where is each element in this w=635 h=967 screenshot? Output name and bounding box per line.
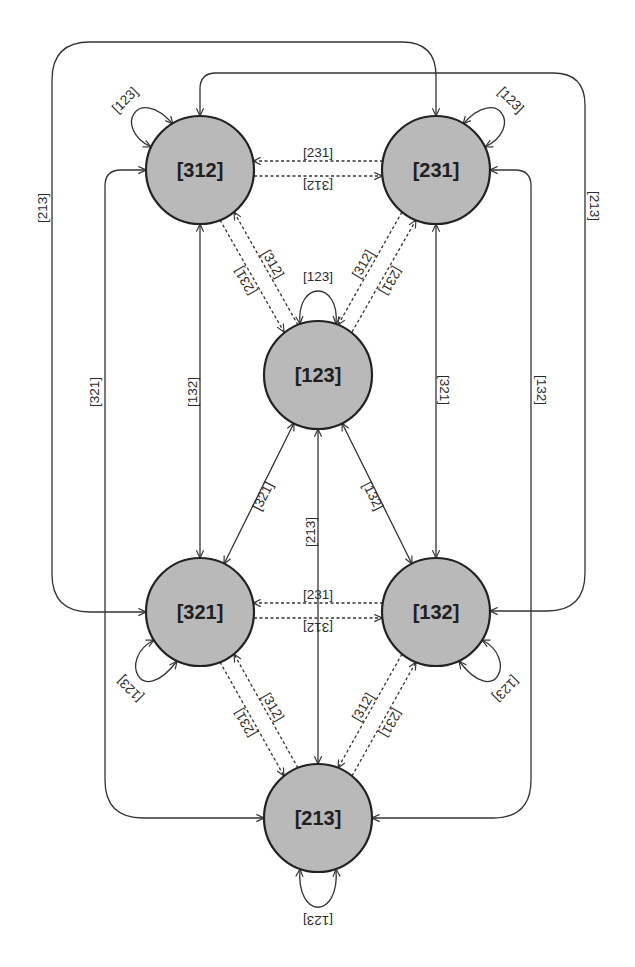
edge-label-132-to-321: [231]	[303, 587, 333, 602]
edge-label-312-to-231: [312]	[303, 178, 333, 193]
node-label: [123]	[295, 364, 342, 386]
edge-label-231-to-123: [312]	[349, 247, 377, 281]
node-321: [321]	[146, 558, 254, 666]
edge-label-123-to-231: [231]	[377, 264, 405, 298]
edge-label-321-to-132: [312]	[303, 620, 333, 635]
edge-label-123-321: [321]	[250, 479, 277, 513]
edge-label-self-123: [123]	[303, 269, 333, 284]
edge-label-213-to-321: [312]	[259, 690, 287, 724]
edge-label-231-to-312: [231]	[303, 145, 333, 160]
edge-label-312-to-123: [231]	[231, 264, 259, 298]
node-123: [123]	[264, 321, 372, 429]
node-312: [312]	[146, 116, 254, 224]
edge-label-123-213: [213]	[303, 517, 318, 547]
node-231: [231]	[382, 116, 490, 224]
edge-label-self-321: [123]	[114, 673, 146, 705]
node-label: [231]	[413, 159, 460, 181]
edge-label-312-132-outer: [213]	[587, 191, 602, 221]
permutation-graph: [312] [231] [123] [321] [132] [213] [123…	[0, 0, 635, 967]
edge-label-312-213: [321]	[87, 377, 102, 407]
node-label: [132]	[413, 601, 460, 623]
node-label: [213]	[295, 807, 342, 829]
edge-label-231-132: [321]	[437, 375, 452, 405]
edge-label-123-to-312: [312]	[259, 247, 287, 281]
edge-label-312-321: [132]	[185, 377, 200, 407]
edge-label-321-231-outer: [213]	[35, 193, 50, 223]
self-loop-123	[300, 291, 337, 324]
edge-label-231-213: [132]	[534, 375, 549, 405]
edge-label-321-to-213: [231]	[231, 706, 259, 740]
edge-321-231-outer-left	[52, 42, 436, 612]
node-213: [213]	[264, 764, 372, 872]
edge-label-self-132: [123]	[490, 673, 522, 705]
node-label: [321]	[177, 601, 224, 623]
edge-label-self-213: [123]	[303, 913, 333, 928]
node-label: [312]	[177, 159, 224, 181]
edge-label-123-132: [132]	[360, 479, 387, 513]
node-132: [132]	[382, 558, 490, 666]
self-loop-213	[300, 869, 337, 907]
